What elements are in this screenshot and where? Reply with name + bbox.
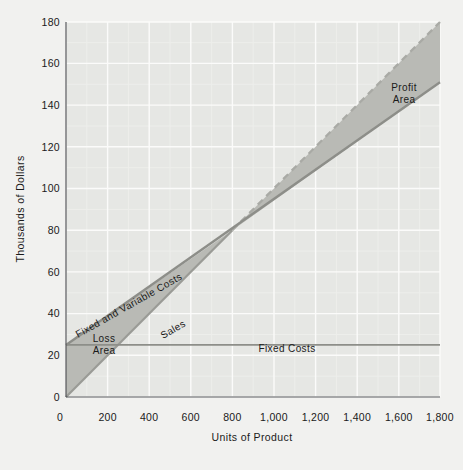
x-tick-label: 800 [223,411,241,423]
y-tick-label: 40 [48,307,60,319]
loss-area-label-line2: Area [93,345,116,356]
x-tick-label: 1,600 [385,411,413,423]
y-tick-label: 120 [42,141,60,153]
y-tick-label: 160 [42,57,60,69]
y-tick-label: 180 [42,16,60,28]
x-tick-label: 1,800 [426,411,454,423]
x-tick-label: 0 [57,411,63,423]
y-tick-label: 0 [54,391,60,403]
break-even-chart: 0 20 40 60 80 100 120 140 160 180 0 200 … [0,0,463,470]
x-axis-title: Units of Product [211,431,292,443]
y-tick-label: 80 [48,224,60,236]
y-axis-title: Thousands of Dollars [14,155,26,262]
x-tick-label: 1,400 [343,411,371,423]
x-tick-label: 1,200 [302,411,330,423]
x-tick-label: 600 [182,411,200,423]
y-tick-label: 20 [48,349,60,361]
x-tick-label: 200 [98,411,116,423]
profit-area-label-line2: Area [393,94,416,105]
y-tick-label: 100 [42,182,60,194]
x-tick-label: 1,000 [260,411,288,423]
y-tick-label: 60 [48,266,60,278]
chart-svg: 0 20 40 60 80 100 120 140 160 180 0 200 … [0,0,463,470]
x-tick-label: 400 [140,411,158,423]
loss-area-label-line1: Loss [93,333,116,344]
y-tick-label: 140 [42,99,60,111]
fixed-costs-label: Fixed Costs [258,343,315,354]
profit-area-label-line1: Profit [391,82,417,93]
